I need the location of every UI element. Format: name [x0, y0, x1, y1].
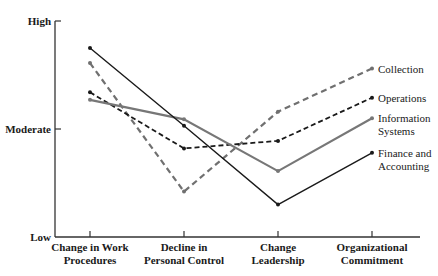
chart-axes: HighModerateLowChange in WorkProceduresD…	[5, 15, 420, 266]
data-point	[88, 46, 92, 50]
legend-label: Operations	[378, 92, 426, 104]
legend-label: Collection	[378, 63, 424, 75]
x-tick-label: Leadership	[251, 254, 304, 266]
x-tick-label: Organizational	[337, 241, 408, 253]
y-tick-label: High	[28, 15, 51, 27]
series-line-information-systems	[90, 100, 372, 171]
x-tick-label: Commitment	[341, 254, 404, 266]
data-point	[182, 124, 186, 128]
data-point	[370, 151, 374, 155]
x-tick-label: Change in Work	[51, 241, 129, 253]
data-point	[370, 67, 374, 71]
data-point	[276, 110, 280, 114]
x-tick-label: Change	[260, 241, 296, 253]
legend-label: Finance and	[378, 147, 432, 159]
x-tick-label: Personal Control	[144, 254, 224, 266]
data-point	[370, 116, 374, 120]
data-point	[276, 139, 280, 143]
x-tick-label: Decline in	[161, 241, 208, 253]
data-point	[370, 96, 374, 100]
data-point	[88, 90, 92, 94]
line-chart: HighModerateLowChange in WorkProceduresD…	[0, 0, 438, 276]
data-point	[88, 61, 92, 65]
data-point	[276, 169, 280, 173]
series-line-finance-and-accounting	[90, 48, 372, 205]
data-point	[182, 117, 186, 121]
data-point	[182, 146, 186, 150]
legend-label: Accounting	[378, 160, 430, 172]
y-tick-label: Moderate	[5, 123, 51, 135]
y-tick-label: Low	[30, 231, 51, 243]
data-point	[276, 203, 280, 207]
data-point	[182, 190, 186, 194]
legend-label: Systems	[378, 125, 415, 137]
chart-legend: CollectionOperationsInformationSystemsFi…	[378, 63, 432, 172]
chart-series	[88, 46, 374, 207]
legend-label: Information	[378, 112, 431, 124]
x-tick-label: Procedures	[64, 254, 117, 266]
data-point	[88, 98, 92, 102]
